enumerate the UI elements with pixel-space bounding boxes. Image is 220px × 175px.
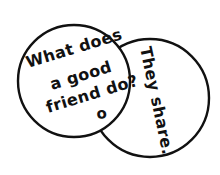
diagram-canvas: What does a good friend do? o They share… bbox=[0, 0, 220, 175]
bullet-o-mark: o bbox=[96, 104, 109, 123]
overlapping-circles-diagram: What does a good friend do? o They share… bbox=[0, 0, 220, 175]
